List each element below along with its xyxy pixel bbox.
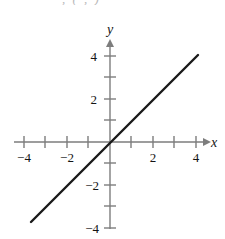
plotted-line-y-equals-x	[31, 55, 198, 222]
x-tick-label--4: −4	[17, 150, 31, 165]
y-tick-label-2: 2	[91, 92, 98, 107]
x-tick-label--2: −2	[60, 150, 74, 165]
y-tick-label-4: 4	[91, 49, 98, 64]
x-tick-label-2: 2	[150, 150, 157, 165]
y-tick-label--4: −4	[85, 221, 99, 236]
x-axis-label: x	[210, 135, 218, 150]
y-tick-label--2: −2	[85, 178, 99, 193]
graph-figure: , ( , )	[0, 0, 225, 239]
y-axis-arrow-icon	[106, 39, 114, 47]
x-tick-label-4: 4	[193, 150, 200, 165]
coordinate-plane: −4 −2 2 4 4 2 −2 −4 x y	[0, 0, 225, 239]
x-axis-arrow-icon	[203, 138, 211, 146]
y-axis-label: y	[105, 22, 114, 37]
